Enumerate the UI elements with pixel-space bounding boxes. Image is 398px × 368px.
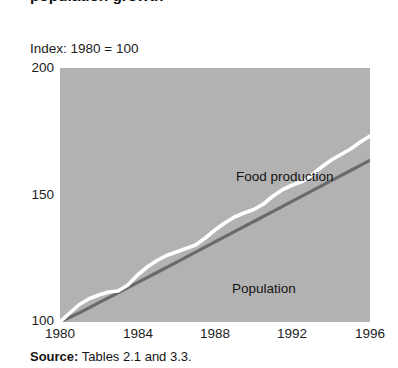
- page-title: population growth: [30, 0, 163, 5]
- series-label-population: Population: [232, 281, 296, 296]
- y-axis-tick-200: 200: [8, 60, 54, 75]
- x-axis-tick-1992: 1992: [268, 326, 316, 341]
- source-note: Source: Tables 2.1 and 3.3.: [30, 349, 192, 364]
- x-axis-tick-1988: 1988: [191, 326, 239, 341]
- series-label-food-production: Food production: [236, 169, 334, 184]
- food-production-line: [60, 136, 370, 322]
- x-axis-tick-1980: 1980: [36, 326, 84, 341]
- source-text: Tables 2.1 and 3.3.: [78, 349, 191, 364]
- chart-plot-area: Food production Population: [60, 68, 370, 322]
- source-label: Source:: [30, 349, 78, 364]
- index-note: Index: 1980 = 100: [30, 41, 138, 56]
- x-axis-tick-1996: 1996: [346, 326, 394, 341]
- y-axis-tick-150: 150: [8, 187, 54, 202]
- population-line: [60, 160, 370, 322]
- chart-svg: [60, 68, 370, 322]
- x-axis-tick-1984: 1984: [114, 326, 162, 341]
